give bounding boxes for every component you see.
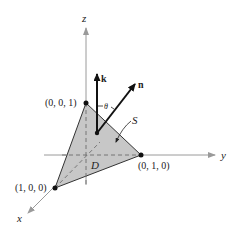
- point-z-intercept: [84, 101, 89, 106]
- x-axis-label: x: [16, 212, 22, 224]
- n-vector-label: n: [138, 79, 144, 90]
- k-vector-label: k: [101, 73, 107, 84]
- point-x-intercept: [53, 186, 58, 191]
- point-y-intercept: [139, 153, 144, 158]
- y-axis-label: y: [220, 149, 226, 161]
- vector-base-point: [95, 131, 99, 135]
- point-label-x-intercept: (1, 0, 0): [15, 182, 47, 194]
- point-label-y-intercept: (0, 1, 0): [138, 160, 170, 172]
- surface-normal-diagram: z y x (0, 0, 1) (1, 0, 0) (0, 1, 0) k n …: [0, 0, 238, 229]
- n-vector: [97, 84, 135, 133]
- point-label-z-intercept: (0, 0, 1): [45, 97, 77, 109]
- theta-label: θ: [104, 102, 108, 111]
- z-axis-label: z: [81, 12, 87, 24]
- region-label: D: [90, 159, 99, 171]
- surface-label: S: [132, 114, 138, 126]
- theta-arc-right: [111, 107, 114, 109]
